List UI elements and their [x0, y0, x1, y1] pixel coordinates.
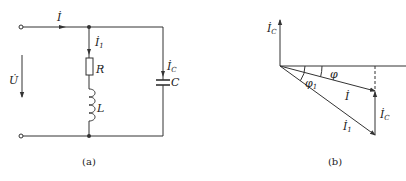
label-inductor: L — [96, 102, 104, 115]
current-arrow-icon — [59, 25, 66, 29]
branch1-current-arrow-icon — [87, 49, 91, 55]
diagram-canvas: İ İ1 R L İC C U̇ (a) İC φ φ1 İ İ1 İC (b) — [0, 0, 406, 181]
label-total-current: İ — [56, 10, 62, 24]
label-phi: φ — [330, 68, 338, 81]
input-terminal-top — [19, 25, 23, 29]
phasor-diagram: İC φ φ1 İ İ1 İC (b) — [266, 20, 406, 167]
label-phi1: φ1 — [305, 77, 317, 91]
label-total-current-phasor: İ — [344, 89, 350, 103]
cap-current-arrow-icon — [161, 71, 165, 77]
label-axis-ic: İC — [266, 21, 277, 36]
label-cap-current-phasor: İC — [379, 107, 390, 122]
label-cap-current: İC — [166, 59, 177, 74]
inductor-symbol — [89, 89, 95, 121]
caption-a: (a) — [82, 156, 96, 167]
input-terminal-bottom — [19, 134, 23, 138]
caption-b: (b) — [328, 156, 342, 167]
label-branch1-current: İ1 — [94, 35, 104, 50]
label-resistor: R — [95, 63, 104, 76]
label-voltage: U̇ — [9, 74, 19, 87]
angle-arc-phi — [321, 66, 322, 77]
label-branch1-current-phasor: İ1 — [342, 119, 352, 134]
phasor-branch1-current — [280, 66, 375, 135]
phasor-total-current — [280, 66, 375, 91]
circuit-diagram: İ İ1 R L İC C U̇ (a) — [9, 10, 180, 167]
resistor-symbol — [86, 58, 93, 75]
label-capacitor: C — [171, 76, 180, 89]
